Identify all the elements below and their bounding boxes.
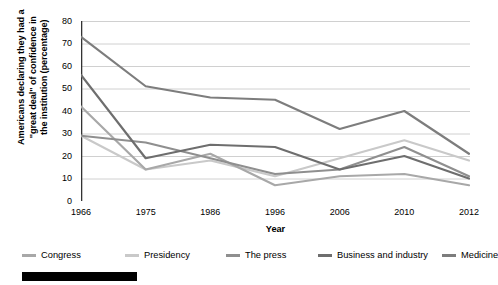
y-axis-title-line-1: Americans declaring they had a (16, 10, 26, 145)
x-tick-label: 2012 (447, 207, 491, 217)
y-axis-title-line-2: "great deal" of confidence in (27, 16, 37, 138)
y-tick-label: 10 (50, 174, 72, 183)
legend-item-business-and-industry[interactable]: Business and industry (318, 248, 428, 262)
series-line-medicine (81, 37, 469, 154)
bottom-black-bar (22, 272, 137, 281)
legend-label: Business and industry (337, 250, 428, 260)
legend-item-presidency[interactable]: Presidency (125, 248, 190, 262)
legend-swatch-icon (226, 254, 240, 257)
chart-plot-svg (81, 21, 470, 201)
plot-area (81, 21, 470, 201)
legend-swatch-icon (22, 254, 36, 257)
x-tick-label: 1975 (124, 207, 168, 217)
x-tick-label: 2006 (318, 207, 362, 217)
legend-label: The press (245, 250, 286, 260)
y-tick-label: 0 (50, 197, 72, 206)
x-tick-label: 1986 (188, 207, 232, 217)
y-axis-title: Americans declaring they had a "great de… (16, 0, 51, 172)
y-tick-label: 20 (50, 152, 72, 161)
legend-item-medicine[interactable]: Medicine (442, 248, 498, 262)
y-tick-label: 30 (50, 129, 72, 138)
x-tick-label: 1996 (253, 207, 297, 217)
y-tick-label: 50 (50, 84, 72, 93)
x-tick-label: 2010 (382, 207, 426, 217)
y-tick-label: 60 (50, 62, 72, 71)
legend-label: Presidency (144, 250, 190, 260)
chart-legend: CongressPresidencyThe pressBusiness and … (22, 248, 472, 264)
legend-item-the-press[interactable]: The press (226, 248, 286, 262)
y-axis-title-line-3: the institution (percentage) (39, 19, 49, 135)
legend-swatch-icon (318, 254, 332, 257)
legend-label: Congress (41, 250, 81, 260)
x-axis-title: Year (81, 224, 470, 234)
y-tick-label: 80 (50, 17, 72, 26)
legend-label: Medicine (461, 250, 498, 260)
legend-swatch-icon (442, 254, 456, 257)
legend-item-congress[interactable]: Congress (22, 248, 81, 262)
y-tick-label: 70 (50, 39, 72, 48)
x-tick-label: 1966 (59, 207, 103, 217)
y-tick-label: 40 (50, 107, 72, 116)
legend-swatch-icon (125, 254, 139, 257)
